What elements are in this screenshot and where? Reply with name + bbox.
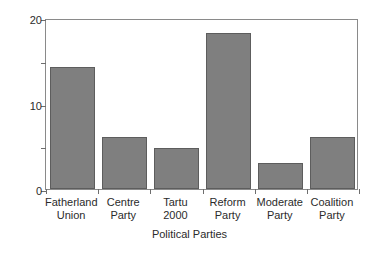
x-tick-mark (359, 189, 360, 194)
x-tick-mark (150, 189, 151, 194)
bar (102, 137, 147, 189)
x-tick-label: Reform Party (202, 196, 254, 222)
bar (258, 163, 303, 189)
y-tick-label: 20 (30, 15, 42, 26)
x-tick-mark (203, 189, 204, 194)
bar (206, 33, 251, 189)
x-tick-mark (255, 189, 256, 194)
x-tick-label: Fatherland Union (45, 196, 97, 222)
bar (50, 67, 95, 189)
x-tick-label: Centre Party (97, 196, 149, 222)
bar-chart-figure: Per cent 01020 Fatherland UnionCentre Pa… (0, 0, 379, 256)
y-tick-label: 0 (36, 186, 42, 197)
x-tick-mark (46, 189, 47, 194)
y-tick-mark (41, 148, 46, 149)
x-tick-label: Tartu 2000 (149, 196, 201, 222)
x-tick-label: Coalition Party (306, 196, 358, 222)
y-tick-label: 10 (30, 100, 42, 111)
x-tick-label: Moderate Party (254, 196, 306, 222)
bar (154, 148, 199, 189)
y-tick-mark (41, 63, 46, 64)
x-axis-title: Political Parties (0, 228, 379, 240)
x-tick-mark (307, 189, 308, 194)
bar (310, 137, 355, 189)
plot-area: 01020 (45, 19, 358, 190)
x-tick-mark (98, 189, 99, 194)
